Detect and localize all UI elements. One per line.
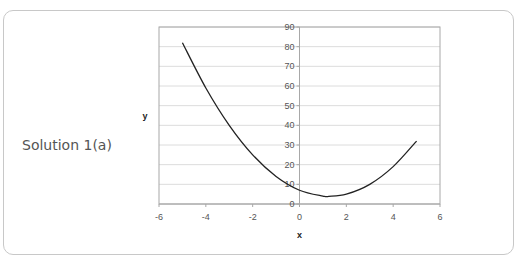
y-tick-label: 60	[284, 81, 294, 91]
y-tick-label: 80	[284, 42, 294, 52]
x-tick-label: -4	[202, 212, 210, 222]
y-tick-label: 40	[284, 120, 294, 130]
y-tick-label: 30	[284, 140, 294, 150]
y-axis-label: y	[142, 111, 147, 121]
x-tick-label: 2	[344, 212, 349, 222]
y-tick-label: 0	[289, 199, 294, 209]
y-tick-label: 90	[284, 22, 294, 32]
x-axis-label: x	[297, 230, 302, 240]
x-tick-label: -2	[249, 212, 257, 222]
x-tick-label: 4	[391, 212, 396, 222]
parabola-chart: 0102030405060708090-6-4-20246xy	[0, 0, 521, 265]
y-tick-label: 70	[284, 61, 294, 71]
x-tick-label: 0	[297, 212, 302, 222]
x-tick-label: -6	[155, 212, 163, 222]
x-tick-label: 6	[437, 212, 442, 222]
y-tick-label: 20	[284, 160, 294, 170]
y-tick-label: 50	[284, 101, 294, 111]
